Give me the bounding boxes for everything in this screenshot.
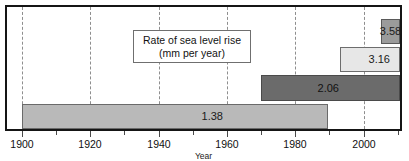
x-axis-title: Year — [5, 151, 402, 161]
legend-line-units: (mm per year) — [159, 47, 225, 60]
x-tick-1910 — [56, 131, 57, 135]
x-tick-label-1960: 1960 — [215, 138, 238, 150]
x-tick-label-1900: 1900 — [10, 138, 33, 150]
legend-box: Rate of sea level rise (mm per year) — [133, 30, 251, 63]
bar-2-06[interactable]: 2.06 — [261, 75, 400, 101]
x-tick-1960 — [227, 131, 228, 137]
x-tick-label-1980: 1980 — [283, 138, 306, 150]
x-tick-1920 — [90, 131, 91, 137]
x-tick-1980 — [295, 131, 296, 137]
bar-label-1-38: 1.38 — [202, 111, 327, 122]
x-tick-1930 — [124, 131, 125, 135]
x-tick-1950 — [193, 131, 194, 135]
x-tick-1990 — [329, 131, 330, 135]
x-tick-2000 — [364, 131, 365, 137]
bar-3-58[interactable]: 3.58 — [381, 19, 400, 44]
plot-area: 3.58 3.16 2.06 1.38 Rate of sea level ri… — [7, 7, 400, 129]
legend-line-title: Rate of sea level rise — [143, 34, 241, 47]
plot-frame: 3.58 3.16 2.06 1.38 Rate of sea level ri… — [5, 5, 402, 131]
x-tick-1940 — [159, 131, 160, 137]
bar-1-38[interactable]: 1.38 — [22, 104, 328, 129]
x-tick-label-1940: 1940 — [147, 138, 170, 150]
bar-label-3-58: 3.58 — [380, 26, 401, 37]
x-axis: 1900 1920 1940 1960 1980 2000 Year — [5, 131, 402, 161]
x-tick-1970 — [261, 131, 262, 135]
sea-level-rise-bar-chart: 3.58 3.16 2.06 1.38 Rate of sea level ri… — [0, 0, 409, 161]
x-tick-label-1920: 1920 — [78, 138, 101, 150]
x-tick-label-2000: 2000 — [352, 138, 375, 150]
bar-label-2-06: 2.06 — [318, 83, 399, 94]
bar-label-3-16: 3.16 — [369, 54, 399, 65]
x-tick-1900 — [22, 131, 23, 137]
bar-3-16[interactable]: 3.16 — [340, 47, 400, 72]
x-tick-2010 — [398, 131, 399, 135]
